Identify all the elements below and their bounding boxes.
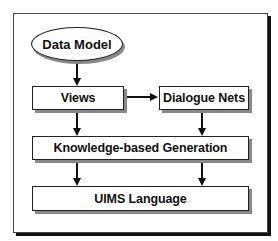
node-label: UIMS Language [94,192,186,206]
node-views: Views [32,86,124,110]
node-data-model: Data Model [31,27,123,61]
node-dialogue-nets: Dialogue Nets [159,86,249,110]
node-label: Dialogue Nets [163,91,245,105]
node-knowledge-based-generation: Knowledge-based Generation [32,136,249,160]
node-label: Views [61,91,96,105]
node-label: Data Model [42,37,111,52]
node-label: Knowledge-based Generation [54,141,228,155]
node-uims-language: UIMS Language [32,186,249,211]
